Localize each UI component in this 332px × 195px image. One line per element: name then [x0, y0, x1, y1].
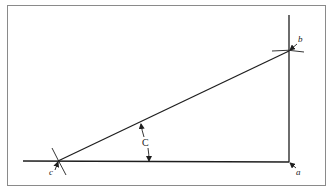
diagram-canvas: b a c C	[0, 0, 332, 195]
label-angle-c: C	[142, 137, 149, 148]
baseline	[23, 161, 289, 162]
hypotenuse	[58, 51, 289, 161]
label-point-a: a	[296, 167, 301, 177]
pointer-arrow-c	[55, 162, 58, 170]
pointer-arrow-b	[290, 44, 297, 50]
angle-arc-upper	[141, 124, 144, 137]
frame-border	[8, 6, 326, 186]
label-point-b: b	[298, 34, 303, 44]
angle-arc-lower	[148, 148, 149, 161]
label-point-c: c	[49, 167, 53, 177]
